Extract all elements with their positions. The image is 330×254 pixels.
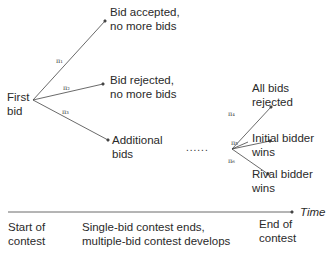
prob-label: π₄ (228, 110, 235, 118)
timeline-line1: Start of (8, 220, 45, 234)
branch-label: Bid accepted, no more bids (110, 5, 180, 33)
prob-label: π₅ (231, 139, 238, 147)
branch-line2: no more bids (110, 87, 176, 101)
timeline-label-end: End of contest (259, 217, 296, 245)
timeline-label-start: Start of contest (8, 220, 45, 248)
timeline-line2: multiple-bid contest develops (82, 234, 230, 248)
sub-branch-line1: Initial bidder (252, 131, 314, 145)
timeline-label-middle: Single-bid contest ends, multiple-bid co… (82, 220, 230, 248)
root-line1: First (7, 90, 29, 104)
sub-branch-line2: wins (252, 181, 313, 195)
sub-branch-line1: Rival bidder (252, 167, 313, 181)
timeline-line2: contest (8, 234, 45, 248)
timeline-line2: contest (259, 231, 296, 245)
branch-line2: bids (112, 147, 163, 161)
prob-label: π₃ (62, 108, 69, 116)
sub-branch-label: Rival bidder wins (252, 167, 313, 195)
prob-label: π₁ (56, 57, 63, 65)
sub-branch-line1: All bids (252, 81, 293, 95)
timeline-line1: End of (259, 217, 296, 231)
sub-branch-line2: rejected (252, 95, 293, 109)
branch-line1: Additional (112, 133, 163, 147)
prob-label: π₂ (63, 84, 70, 92)
diagram-lines (0, 0, 330, 254)
sub-branch-line2: wins (252, 145, 314, 159)
time-axis-label: Time (300, 205, 325, 219)
timeline-line1: Single-bid contest ends, (82, 220, 230, 234)
sub-branch-label: All bids rejected (252, 81, 293, 109)
prob-label: π₆ (228, 157, 235, 165)
branch-label: Bid rejected, no more bids (110, 73, 176, 101)
ellipsis: ...... (186, 141, 209, 155)
root-label: First bid (7, 90, 29, 118)
branch-line1: Bid accepted, (110, 5, 180, 19)
root-line2: bid (7, 104, 29, 118)
sub-branch-label: Initial bidder wins (252, 131, 314, 159)
branch-line1: Bid rejected, (110, 73, 176, 87)
branch-label: Additional bids (112, 133, 163, 161)
branch-line2: no more bids (110, 19, 180, 33)
